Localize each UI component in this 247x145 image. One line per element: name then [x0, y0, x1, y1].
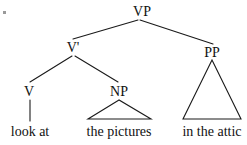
edge-vp-to-pp [140, 20, 213, 44]
scan-speck [3, 11, 6, 14]
pp-triangle [183, 60, 241, 119]
edge-vbar-to-v [30, 56, 72, 82]
syntax-tree-figure: VP V' PP V NP look at the pictures in th… [0, 0, 247, 145]
node-label-np: NP [110, 84, 128, 99]
leaf-label-np: the pictures [87, 124, 152, 139]
edge-vp-to-vbar [73, 20, 138, 39]
edge-vbar-to-np [75, 56, 118, 82]
np-triangle [88, 100, 151, 119]
node-label-vbar: V' [67, 40, 80, 55]
leaf-label-v: look at [11, 124, 50, 139]
node-label-vp: VP [133, 4, 151, 19]
node-label-pp: PP [204, 45, 220, 60]
leaf-label-pp: in the attic [182, 124, 241, 139]
syntax-tree-canvas: VP V' PP V NP look at the pictures in th… [0, 0, 247, 145]
node-label-v: V [24, 84, 34, 99]
